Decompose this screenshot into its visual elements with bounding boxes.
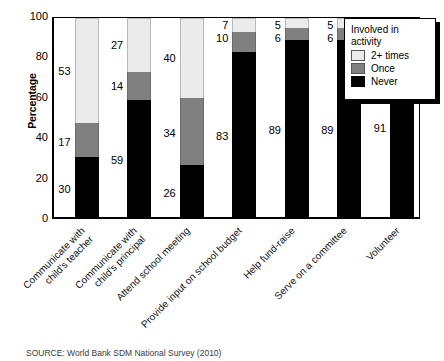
bar-value-label: 14 bbox=[101, 81, 123, 92]
bar-value-label: 59 bbox=[101, 155, 123, 166]
bar-segment-once[interactable] bbox=[232, 32, 256, 52]
legend-label-never: Never bbox=[371, 76, 398, 87]
y-tick-label-20: 20 bbox=[18, 173, 48, 184]
bar-value-label: 5 bbox=[259, 20, 281, 31]
bar-value-label: 34 bbox=[154, 128, 176, 139]
stacked-bar[interactable] bbox=[285, 18, 309, 217]
chart-figure: Percentage 020406080100 3017535914272634… bbox=[0, 0, 444, 361]
bar-column[interactable] bbox=[180, 18, 204, 217]
legend-label-once: Once bbox=[371, 63, 395, 74]
bar-segment-never[interactable] bbox=[127, 100, 151, 217]
bar-segment-2-times[interactable] bbox=[232, 18, 256, 32]
bar-value-label: 6 bbox=[259, 33, 281, 44]
y-tick-label-40: 40 bbox=[18, 132, 48, 143]
bar-value-label: 5 bbox=[311, 20, 333, 31]
bar-segment-once[interactable] bbox=[285, 28, 309, 40]
bar-segment-never[interactable] bbox=[232, 52, 256, 217]
bar-column[interactable] bbox=[232, 18, 256, 217]
stacked-bar[interactable] bbox=[75, 18, 99, 217]
bar-value-label: 53 bbox=[49, 66, 71, 77]
y-tick-label-80: 80 bbox=[18, 51, 48, 62]
y-tick-label-100: 100 bbox=[18, 11, 48, 22]
x-axis-label-line1: Help fund-raise bbox=[241, 225, 297, 281]
bar-segment-once[interactable] bbox=[75, 123, 99, 157]
legend-title: Involved in activity bbox=[351, 24, 429, 47]
x-axis-label-4: Help fund-raise bbox=[241, 225, 297, 281]
stacked-bar[interactable] bbox=[180, 18, 204, 217]
legend-swatch-never-icon bbox=[351, 76, 365, 87]
source-note: SOURCE: World Bank SDM National Survey (… bbox=[26, 348, 221, 358]
y-tick-label-60: 60 bbox=[18, 92, 48, 103]
bar-value-label: 40 bbox=[154, 53, 176, 64]
stacked-bar[interactable] bbox=[127, 18, 151, 217]
legend-title-line1: Involved in bbox=[351, 24, 399, 35]
legend-item-2plus[interactable]: 2+ times bbox=[351, 50, 429, 61]
bar-segment-never[interactable] bbox=[285, 40, 309, 217]
legend-swatch-once-icon bbox=[351, 63, 365, 74]
bar-value-label: 26 bbox=[154, 188, 176, 199]
legend-item-once[interactable]: Once bbox=[351, 63, 429, 74]
x-axis-label-3: Provide input on school budget bbox=[139, 225, 244, 330]
bar-segment-2-times[interactable] bbox=[127, 18, 151, 72]
bar-segment-2-times[interactable] bbox=[180, 18, 204, 98]
legend-label-2plus: 2+ times bbox=[371, 50, 409, 61]
x-axis-label-line1: Provide input on school budget bbox=[139, 225, 244, 330]
bar-value-label: 6 bbox=[311, 33, 333, 44]
bar-value-label: 10 bbox=[206, 33, 228, 44]
bar-value-label: 83 bbox=[206, 131, 228, 142]
bar-segment-2-times[interactable] bbox=[75, 18, 99, 123]
bar-segment-2-times[interactable] bbox=[285, 18, 309, 28]
legend-swatch-2plus-icon bbox=[351, 50, 365, 61]
bar-segment-once[interactable] bbox=[127, 72, 151, 100]
stacked-bar[interactable] bbox=[232, 18, 256, 217]
chart-legend: Involved in activity 2+ times Once Never bbox=[344, 18, 436, 100]
bar-column[interactable] bbox=[285, 18, 309, 217]
bar-value-label: 30 bbox=[49, 184, 71, 195]
bar-value-label: 7 bbox=[206, 20, 228, 31]
bar-segment-never[interactable] bbox=[180, 165, 204, 217]
bar-value-label: 27 bbox=[101, 40, 123, 51]
bar-value-label: 89 bbox=[259, 125, 281, 136]
x-axis-category-labels: Communicate withchild's teacherCommunica… bbox=[0, 219, 444, 344]
bar-segment-never[interactable] bbox=[75, 157, 99, 217]
bar-segment-once[interactable] bbox=[180, 98, 204, 166]
legend-item-never[interactable]: Never bbox=[351, 76, 429, 87]
legend-title-line2: activity bbox=[351, 36, 382, 47]
bar-value-label: 91 bbox=[364, 123, 386, 134]
bar-value-label: 17 bbox=[49, 137, 71, 148]
x-axis-label-line1: Volunteer bbox=[364, 225, 402, 263]
bar-column[interactable] bbox=[127, 18, 151, 217]
bar-column[interactable] bbox=[75, 18, 99, 217]
bar-value-label: 89 bbox=[311, 125, 333, 136]
x-axis-label-6: Volunteer bbox=[364, 225, 402, 263]
